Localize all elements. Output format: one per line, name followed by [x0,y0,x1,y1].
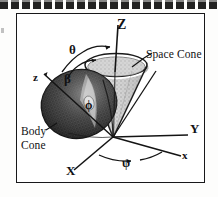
axis-label-Z: Z [117,18,126,32]
space-cone-label: Space Cone [146,49,202,61]
page-root: Z θ z β ϕ Space Cone Body Cone Y x X ψ [0,0,218,197]
body-cone-label-line2: Cone [21,140,46,152]
body-cone-label-line1: Body [21,126,46,138]
figure-border-box [16,13,205,183]
page-edge-mark [1,28,4,33]
angle-label-beta: β [64,72,71,85]
angle-label-theta: θ [69,43,76,56]
axis-label-z-body: z [33,72,38,83]
scan-artifact-dashed-rule [0,2,218,9]
axis-label-X: X [66,164,76,177]
axis-label-x-body: x [182,150,188,161]
angle-label-phi: ϕ [85,99,93,111]
axis-label-Y: Y [190,122,200,135]
angle-label-psi: ψ [122,157,130,169]
